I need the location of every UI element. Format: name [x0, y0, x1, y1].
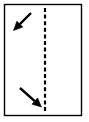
figure-root — [0, 0, 89, 122]
diagram-canvas — [0, 0, 89, 122]
